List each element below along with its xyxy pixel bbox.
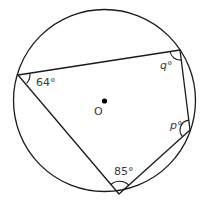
angle-label-b: q° — [160, 59, 172, 72]
center-label: O — [94, 105, 103, 118]
angle-label-c: p° — [169, 119, 182, 132]
center-point — [102, 98, 107, 103]
circle-diagram: O 64° q° p° 85° — [0, 0, 205, 218]
angle-arc-a — [27, 73, 30, 83]
angle-label-a: 64° — [36, 76, 56, 89]
angle-label-d: 85° — [114, 165, 134, 178]
angle-arc-d — [111, 181, 129, 185]
